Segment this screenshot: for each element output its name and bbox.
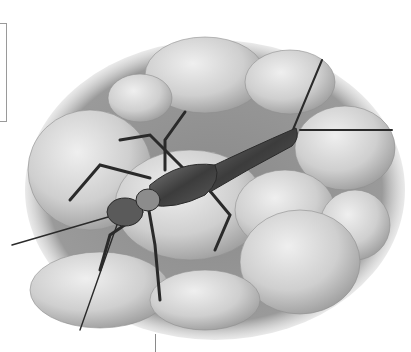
stonefly-illustration <box>0 0 411 352</box>
